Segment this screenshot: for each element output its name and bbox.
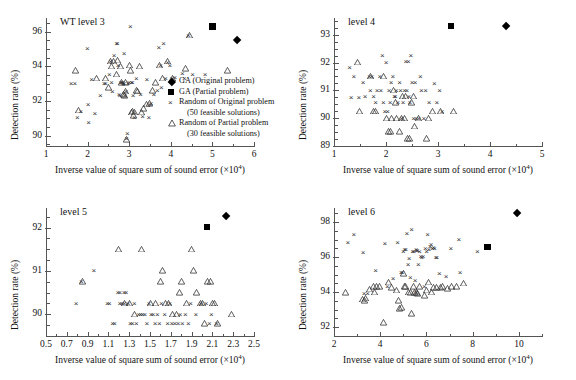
- data-point-open-triangle: [164, 58, 171, 65]
- data-point-cross-x: ×: [427, 99, 432, 107]
- y-tick-minor: [335, 266, 338, 267]
- data-point-cross-x: ×: [180, 320, 185, 328]
- panel-title: level 4: [348, 16, 375, 27]
- x-tick-minor: [181, 334, 182, 337]
- data-point-cross-x: ×: [91, 267, 96, 275]
- x-tick-major: [254, 332, 255, 337]
- x-tick-label: 5: [196, 149, 228, 159]
- y-tick-minor: [47, 217, 50, 218]
- data-point-cross-x: ×: [409, 52, 414, 60]
- x-tick-major: [233, 332, 234, 337]
- data-point-open-triangle: [411, 123, 418, 130]
- legend-entry-label: GA (Partial problem): [179, 87, 249, 98]
- data-point-open-triangle: [356, 108, 363, 115]
- legend-marker-filled-square: [168, 88, 177, 97]
- data-point-cross-x: ×: [157, 320, 162, 328]
- x-tick-major: [438, 142, 439, 147]
- x-tick-minor: [516, 144, 517, 147]
- data-point-cross-x: ×: [351, 73, 356, 81]
- data-point-open-triangle: [423, 135, 430, 142]
- x-tick-minor: [360, 144, 361, 147]
- x-tick-major: [67, 332, 68, 337]
- x-tick-major: [171, 332, 172, 337]
- data-point-open-triangle: [408, 99, 415, 106]
- data-point-cross-x: ×: [435, 254, 440, 262]
- data-point-open-triangle: [395, 297, 402, 304]
- data-point-open-triangle: [453, 283, 460, 290]
- data-point-open-triangle: [173, 311, 180, 318]
- y-tick-minor: [335, 213, 338, 214]
- y-tick-minor: [335, 21, 338, 22]
- data-point-cross-x: ×: [423, 87, 428, 95]
- y-tick-minor: [335, 97, 338, 98]
- data-point-open-triangle: [127, 67, 134, 74]
- data-point-cross-x: ×: [401, 99, 406, 107]
- data-point-open-triangle: [186, 32, 193, 39]
- data-point-cross-x: ×: [444, 273, 449, 281]
- data-point-filled-diamond: [513, 208, 522, 217]
- legend-entry-label: Random of Partial problem: [179, 118, 268, 129]
- x-tick-major: [192, 332, 193, 337]
- data-point-filled-square: [204, 224, 211, 231]
- x-tick-minor: [98, 334, 99, 337]
- data-point-cross-x: ×: [142, 311, 147, 319]
- y-tick-minor: [335, 139, 338, 140]
- y-tick-minor: [335, 301, 338, 302]
- x-tick-label: 1: [318, 149, 350, 159]
- data-point-cross-x: ×: [435, 99, 440, 107]
- y-tick-minor: [335, 248, 338, 249]
- y-tick-major: [333, 35, 339, 36]
- data-point-cross-x: ×: [115, 40, 120, 48]
- data-point-cross-x: ×: [413, 79, 418, 87]
- x-tick-label: 5: [526, 149, 558, 159]
- y-tick-label: 89: [298, 140, 330, 150]
- x-axis-title: Inverse value of square sum of sound err…: [294, 353, 576, 365]
- data-point-cross-x: ×: [373, 99, 378, 107]
- x-tick-minor: [412, 144, 413, 147]
- x-tick-minor: [496, 334, 497, 337]
- y-tick-minor: [47, 325, 50, 326]
- y-tick-major: [333, 222, 339, 223]
- data-point-cross-x: ×: [193, 311, 198, 319]
- data-point-filled-square: [484, 244, 491, 251]
- data-point-open-triangle: [131, 311, 138, 318]
- data-point-cross-x: ×: [357, 94, 362, 102]
- y-tick-minor: [47, 238, 50, 239]
- data-point-open-triangle: [408, 310, 415, 317]
- data-point-open-triangle: [224, 67, 231, 74]
- data-point-open-triangle: [176, 289, 183, 296]
- x-tick-major: [254, 142, 255, 147]
- data-point-open-triangle: [157, 278, 164, 285]
- panel-title: level 5: [60, 206, 87, 217]
- x-tick-minor: [244, 334, 245, 337]
- x-tick-label: 2.5: [238, 339, 270, 349]
- data-point-open-triangle: [165, 300, 172, 307]
- y-tick-label: 96: [10, 26, 42, 36]
- data-point-open-triangle: [156, 62, 163, 69]
- y-tick-minor: [335, 310, 338, 311]
- chart-panel-1: 12345690929496WT level 3Inverse value of…: [0, 0, 288, 190]
- x-tick-minor: [223, 334, 224, 337]
- data-point-filled-square: [209, 23, 216, 30]
- data-point-cross-x: ×: [437, 87, 442, 95]
- data-point-open-triangle: [79, 278, 86, 285]
- x-tick-major: [171, 142, 172, 147]
- y-tick-major: [45, 101, 51, 102]
- y-tick-minor: [335, 69, 338, 70]
- data-point-open-triangle: [387, 128, 394, 135]
- x-tick-minor: [119, 334, 120, 337]
- data-point-open-triangle: [183, 300, 190, 307]
- data-point-cross-x: ×: [349, 94, 354, 102]
- x-tick-label: 3: [422, 149, 454, 159]
- y-tick-minor: [335, 83, 338, 84]
- data-point-open-triangle: [380, 319, 387, 326]
- data-point-open-triangle: [188, 246, 195, 253]
- data-point-open-triangle: [211, 300, 218, 307]
- data-point-open-triangle: [460, 280, 467, 287]
- data-point-cross-x: ×: [86, 101, 91, 109]
- data-point-cross-x: ×: [145, 76, 150, 84]
- x-axis-line: [334, 336, 542, 337]
- x-tick-label: 8: [457, 339, 489, 349]
- y-tick-major: [333, 63, 339, 64]
- x-tick-major: [386, 142, 387, 147]
